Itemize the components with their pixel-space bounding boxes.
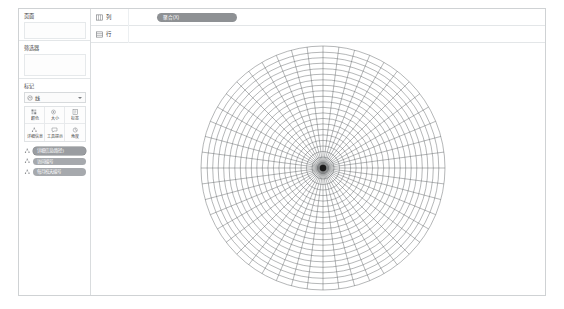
marks-pill-detail-path[interactable]: 详细信息(路径) (33, 147, 86, 155)
pages-drop-zone[interactable] (24, 22, 86, 39)
rows-shelf-label: 行 (106, 30, 128, 38)
angle-icon (72, 127, 79, 133)
marks-pill-row[interactable]: 详细信息(路径) (24, 147, 86, 155)
marks-pill-visit-id[interactable]: 访问编号 (33, 158, 86, 166)
columns-pill[interactable]: 聚合(X) (157, 13, 237, 22)
detail-icon (24, 168, 31, 175)
radial-chart (91, 43, 545, 295)
chevron-down-icon (78, 97, 82, 99)
color-icon (31, 109, 38, 115)
marks-button-size-label: 大小 (51, 116, 59, 121)
label-icon (72, 109, 79, 115)
pages-card-title: 页面 (24, 13, 86, 20)
left-panel: 页面 筛选器 标记 线 颜色 (19, 9, 91, 295)
marks-button-label-label: 标签 (71, 116, 79, 121)
marks-button-size[interactable]: 大小 (45, 107, 65, 124)
columns-icon (96, 14, 103, 21)
tableau-worksheet-window: 页面 筛选器 标记 线 颜色 (18, 8, 546, 296)
detail-icon (31, 127, 38, 133)
tooltip-icon (51, 127, 58, 133)
marks-pill-list: 详细信息(路径) 访问编号 每月校天编号 (24, 147, 86, 176)
radial-grid-svg (91, 43, 545, 295)
filters-card: 筛选器 (19, 41, 90, 79)
mark-type-value: 线 (35, 94, 78, 101)
mark-type-dropdown[interactable]: 线 (24, 92, 86, 103)
pages-card: 页面 (19, 9, 90, 41)
marks-button-label[interactable]: 标签 (65, 107, 85, 124)
worksheet-area: 列 聚合(X) 行 (91, 9, 545, 295)
marks-button-tooltip-label: 工具提示 (47, 134, 62, 139)
size-icon (51, 109, 58, 115)
line-mark-icon (27, 95, 33, 101)
columns-shelf-label: 列 (106, 13, 128, 21)
marks-pill-row[interactable]: 每月校天编号 (24, 168, 86, 176)
detail-icon (24, 147, 31, 154)
marks-card: 标记 线 颜色 大小 (19, 79, 90, 295)
marks-button-tooltip[interactable]: 工具提示 (45, 124, 65, 141)
marks-button-color-label: 颜色 (31, 116, 39, 121)
columns-shelf[interactable]: 列 聚合(X) (91, 9, 545, 26)
rows-drop-zone[interactable] (128, 26, 545, 43)
marks-button-grid: 颜色 大小 标签 (24, 106, 86, 142)
rows-icon (96, 31, 103, 38)
filters-card-title: 筛选器 (24, 45, 86, 52)
marks-button-color[interactable]: 颜色 (25, 107, 45, 124)
rows-shelf[interactable]: 行 (91, 26, 545, 43)
marks-button-angle-label: 角度 (71, 134, 79, 139)
detail-icon (24, 158, 31, 165)
marks-button-angle[interactable]: 角度 (65, 124, 85, 141)
marks-pill-monthly-id[interactable]: 每月校天编号 (33, 168, 86, 176)
marks-button-detail-label: 详细信息 (27, 134, 42, 139)
marks-button-detail[interactable]: 详细信息 (25, 124, 45, 141)
view-canvas[interactable] (91, 43, 545, 295)
filters-drop-zone[interactable] (24, 54, 86, 76)
marks-pill-row[interactable]: 访问编号 (24, 158, 86, 166)
marks-card-title: 标记 (24, 83, 86, 90)
columns-drop-zone[interactable]: 聚合(X) (128, 9, 545, 26)
